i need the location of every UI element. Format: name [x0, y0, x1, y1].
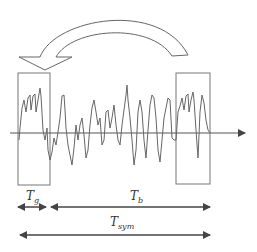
useful-symbol-label: Tb — [130, 189, 143, 205]
copy-arrow-icon — [19, 20, 188, 70]
copied-tail-box — [176, 73, 210, 184]
ofdm-cyclic-prefix-diagram: Tg Tb Tsym — [0, 0, 257, 252]
cyclic-prefix-box — [18, 73, 50, 185]
signal-waveform — [19, 85, 210, 165]
symbol-duration-label: Tsym — [110, 215, 135, 231]
guard-interval-label: Tg — [26, 189, 39, 205]
